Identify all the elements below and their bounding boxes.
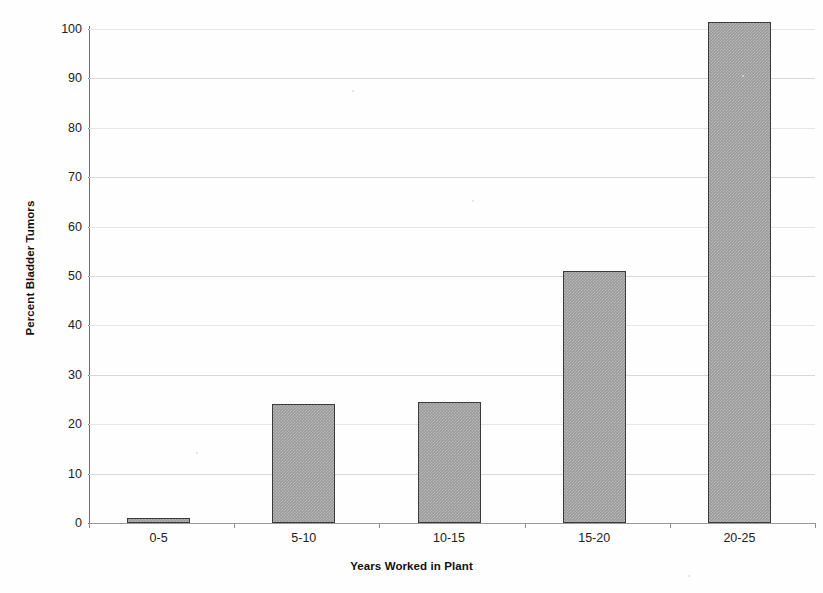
bar-20-25 xyxy=(708,22,771,523)
y-axis-title: Percent Bladder Tumors xyxy=(24,168,36,368)
y-tick-label-70: 70 xyxy=(36,170,82,184)
scan-speckle xyxy=(742,75,744,77)
x-tick-mark-5 xyxy=(815,523,816,528)
y-tick-label-20: 20 xyxy=(36,417,82,431)
scan-speckle xyxy=(688,575,690,577)
x-axis-title: Years Worked in Plant xyxy=(0,560,823,572)
y-tick-label-90: 90 xyxy=(36,71,82,85)
y-tick-label-100: 100 xyxy=(36,22,82,36)
bar-0-5 xyxy=(127,518,190,523)
y-tick-label-30: 30 xyxy=(36,368,82,382)
x-tick-label-20-25: 20-25 xyxy=(723,531,755,545)
bar-10-15 xyxy=(418,402,481,523)
plot-area xyxy=(89,29,815,523)
y-tick-label-10: 10 xyxy=(36,467,82,481)
scan-speckle xyxy=(352,90,354,92)
bar-15-20 xyxy=(563,271,626,523)
bar-5-10 xyxy=(272,404,335,523)
x-axis-line xyxy=(89,523,816,524)
x-tick-mark-4 xyxy=(670,523,671,528)
scan-speckle xyxy=(196,452,198,454)
x-tick-mark-2 xyxy=(379,523,380,528)
x-tick-label-10-15: 10-15 xyxy=(433,531,465,545)
x-tick-mark-3 xyxy=(525,523,526,528)
x-tick-label-5-10: 5-10 xyxy=(291,531,316,545)
y-tick-label-40: 40 xyxy=(36,318,82,332)
x-tick-mark-0 xyxy=(89,523,90,528)
y-tick-label-80: 80 xyxy=(36,121,82,135)
y-tick-label-60: 60 xyxy=(36,220,82,234)
scan-speckle xyxy=(472,200,474,202)
y-tick-label-50: 50 xyxy=(36,269,82,283)
x-tick-label-15-20: 15-20 xyxy=(578,531,610,545)
x-tick-label-0-5: 0-5 xyxy=(150,531,168,545)
bars-layer xyxy=(89,29,815,523)
y-tick-label-0: 0 xyxy=(36,516,82,530)
bar-chart: Percent Bladder Tumors 01020304050607080… xyxy=(0,0,823,593)
x-tick-mark-1 xyxy=(234,523,235,528)
